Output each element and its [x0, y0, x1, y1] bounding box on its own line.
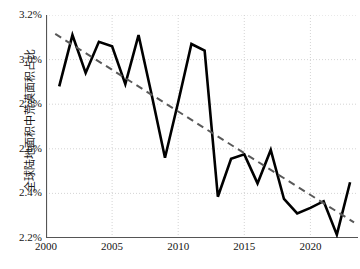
y-tick-label: 3.0% — [6, 54, 42, 65]
x-tick-label: 2000 — [35, 241, 57, 252]
y-tick-label: 2.4% — [6, 187, 42, 198]
y-tick-label: 3.2% — [6, 9, 42, 20]
chart-canvas — [46, 15, 358, 238]
x-tick-label: 2015 — [233, 241, 255, 252]
y-tick-label: 2.8% — [6, 98, 42, 109]
x-axis-tick-labels: 20002005201020152020 — [0, 241, 360, 261]
chart-root: 全球陆地面积中荒漠面积占比 2.2%2.4%2.6%2.8%3.0%3.2% 2… — [0, 0, 360, 269]
x-tick-label: 2005 — [101, 241, 123, 252]
y-axis-tick-labels: 2.2%2.4%2.6%2.8%3.0%3.2% — [4, 0, 42, 269]
x-tick-label: 2010 — [167, 241, 189, 252]
plot-area — [46, 15, 358, 238]
data-series-line — [59, 35, 350, 235]
x-tick-label: 2020 — [299, 241, 321, 252]
y-tick-label: 2.6% — [6, 143, 42, 154]
